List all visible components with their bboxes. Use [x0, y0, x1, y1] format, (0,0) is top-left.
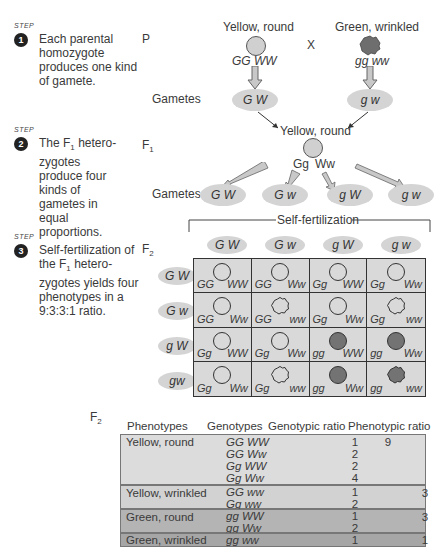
punnett-row-gamete: G W	[158, 267, 196, 285]
step-2-number-badge: 2	[14, 137, 28, 151]
punnett-cell: GgWW	[194, 328, 252, 362]
generation-p-label: P	[142, 32, 150, 46]
gametes-label-f1: Gametes	[152, 187, 201, 201]
punnett-cell: GgWW	[310, 259, 368, 293]
punnett-cell: ggWW	[310, 328, 368, 362]
punnett-col-gamete: G W	[207, 236, 247, 254]
step-2-text: The F1 hetero-zygotes produce four kinds…	[39, 136, 127, 239]
f1-gamete-gW: g W	[327, 184, 373, 206]
green-wrinkled-pea-icon	[358, 34, 382, 56]
parent-gamete-GW: G W	[232, 89, 278, 111]
header-phenotypic-ratio: Phenotypic ratio	[348, 420, 430, 432]
punnett-row-gamete: G w	[158, 302, 196, 320]
f2-table-label: F2	[90, 410, 102, 426]
punnett-cell: GGww	[252, 293, 310, 327]
down-arrow-icon	[247, 66, 263, 90]
cross-symbol: X	[307, 38, 315, 52]
yellow-wrinkled-pea-icon	[270, 296, 290, 316]
punnett-cell: GGWw	[252, 259, 310, 293]
parent-yellow-round-label: Yellow, round	[223, 20, 294, 34]
yellow-round-pea-icon	[246, 36, 266, 56]
table-row-green-wrinkled: Green, wrinkled gg ww 1 1	[120, 533, 426, 547]
green-wrinkled-pea-icon	[386, 365, 406, 385]
table-row-yellow-round: Yellow, round GG WW GG Ww Gg WW Gg Ww 1 …	[120, 434, 426, 485]
step-3-tag: STEP	[14, 233, 34, 240]
punnett-cell: GgWw	[252, 328, 310, 362]
punnett-cell: ggWw	[310, 362, 368, 396]
parent-gamete-gw: g w	[347, 89, 393, 111]
yellow-wrinkled-pea-icon	[270, 365, 290, 385]
punnett-square: GGWW GGWw GgWW GgWw GGWw GGww GgWw Ggww …	[193, 258, 426, 397]
punnett-cell: GgWw	[367, 259, 425, 293]
step-3-text: Self-fertilization of the F1 hetero-zygo…	[39, 243, 139, 318]
generation-f2-label: F2	[142, 242, 154, 258]
f1-gamete-Gw: G w	[262, 184, 308, 206]
punnett-cell: GgWw	[194, 362, 252, 396]
step-2-tag: STEP	[14, 126, 34, 133]
f1-phenotype-label: Yellow, round	[280, 124, 351, 138]
punnett-cell: Ggww	[252, 362, 310, 396]
punnett-col-gamete: G w	[265, 236, 305, 254]
header-phenotypes: Phenotypes	[127, 420, 188, 432]
punnett-cell: GGWW	[194, 259, 252, 293]
punnett-cell: GgWw	[310, 293, 368, 327]
table-row-green-round: Green, round gg WW gg Ww 1 2 3	[120, 509, 426, 533]
punnett-cell: Ggww	[367, 293, 425, 327]
punnett-col-gamete: g W	[323, 236, 363, 254]
f1-yellow-round-pea-icon	[303, 138, 323, 158]
yellow-wrinkled-pea-icon	[386, 296, 406, 316]
header-genotypes: Genotypes	[207, 420, 263, 432]
generation-f1-label: F1	[142, 138, 154, 154]
f1-gamete-gw: g w	[388, 184, 434, 206]
self-fertilization-label: Self-fertilization	[277, 213, 359, 227]
parent-green-wrinkled-label: Green, wrinkled	[335, 20, 419, 34]
f1-gamete-GW: G W	[200, 184, 246, 206]
down-arrow-icon	[362, 66, 378, 90]
punnett-col-gamete: g w	[381, 236, 421, 254]
table-row-yellow-wrinkled: Yellow, wrinkled GG ww Gg ww 1 2 3	[120, 485, 426, 509]
step-1-number-badge: 1	[14, 33, 28, 47]
punnett-row-gamete: g W	[158, 337, 196, 355]
punnett-cell: ggWw	[367, 328, 425, 362]
punnett-cell: ggww	[367, 362, 425, 396]
header-genotypic-ratio: Genotypic ratio	[268, 420, 345, 432]
step-3-number-badge: 3	[14, 244, 28, 258]
gametes-label-p: Gametes	[152, 92, 201, 106]
punnett-cell: GGWw	[194, 293, 252, 327]
step-1-text: Each parental homozygote produces one ki…	[39, 32, 139, 88]
step-1-tag: STEP	[14, 22, 34, 29]
punnett-row-gamete: gw	[158, 372, 196, 390]
